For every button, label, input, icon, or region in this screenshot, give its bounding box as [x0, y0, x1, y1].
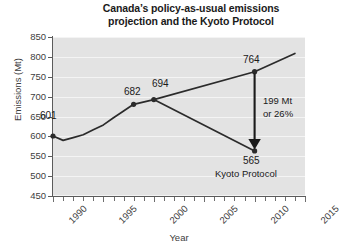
data-point-1990-601 — [50, 133, 55, 138]
point-label-764: 764 — [243, 54, 260, 65]
series-line-projection — [53, 53, 295, 140]
point-label-694: 694 — [152, 78, 169, 89]
point-label-565: 565 — [243, 155, 260, 166]
kyoto-protocol-label: Kyoto Protocol — [215, 168, 277, 180]
data-point-1998-682 — [131, 102, 136, 107]
gap-label-line-2: or 26% — [263, 108, 293, 120]
data-point-2010-565 — [252, 148, 257, 153]
series-line-kyoto — [154, 100, 255, 151]
data-point-2000-694 — [151, 97, 156, 102]
point-label-682: 682 — [124, 86, 141, 97]
gap-label-line-1: 199 Mt — [263, 95, 292, 107]
point-label-601: 601 — [40, 110, 57, 121]
